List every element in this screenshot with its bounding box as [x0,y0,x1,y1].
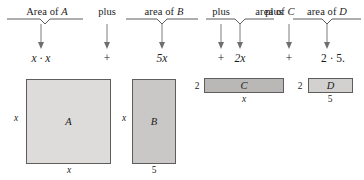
phrase-a-variable: A [61,6,68,17]
phrase-area-of-b: area of B [124,6,204,17]
shape-c-rect: C [204,78,284,93]
arrow-down-a [36,24,46,50]
arrow-down-plus-1 [102,24,112,50]
shape-c-side-label: 2 [192,81,202,91]
connector-word-1: plus [90,6,124,17]
expression-term-c: 2x [225,52,255,64]
figure-canvas: Area of A plus area of B plus area of C … [0,0,364,180]
phrase-a-prefix: Area of [26,6,61,17]
connector-word-2: plus [204,6,238,17]
shape-b-rect: B [132,79,176,164]
shape-b-label: B [151,116,157,127]
shape-a-label: A [65,116,71,127]
phrase-d-prefix: area of [307,6,339,17]
shape-c-label: C [240,80,247,91]
phrase-b-variable: B [177,6,184,17]
shape-b-bottom-label: 5 [147,165,161,175]
shape-c-bottom-label: x [237,94,251,104]
expression-term-a: x · x [13,52,69,64]
expression-term-d: 2 · 5. [312,52,354,64]
arrow-down-b [157,24,167,50]
expression-term-b: 5x [147,52,177,64]
phrase-area-of-d: area of D [290,6,364,17]
arrow-down-c [235,24,245,50]
shape-d-bottom-label: 5 [323,94,337,104]
shape-d-label: D [327,80,335,91]
shape-b-side-label: x [118,113,130,123]
shape-a-bottom-label: x [62,165,76,175]
expression-operator-1: + [92,52,122,64]
shape-a-side-label: x [10,113,22,123]
arrow-down-plus-2 [216,24,226,50]
expression-term-d-text: 2 · 5. [321,52,345,64]
phrase-area-of-a: Area of A [4,6,90,17]
expression-operator-3: + [274,52,304,64]
shape-d-side-label: 2 [295,81,305,91]
shape-a-rect: A [26,79,111,164]
phrase-b-prefix: area of [145,6,177,17]
phrase-d-variable: D [339,6,347,17]
arrow-down-d [322,24,332,50]
connector-word-3: plus [257,6,291,17]
shape-d-rect: D [308,78,353,93]
arrow-down-plus-3 [284,24,294,50]
